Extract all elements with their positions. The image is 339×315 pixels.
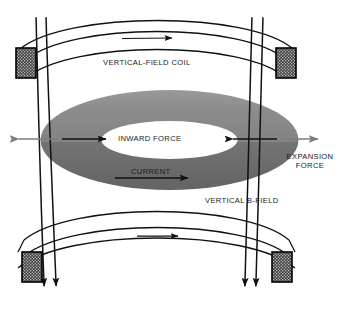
label-vertical-field-coil: VERTICAL-FIELD COIL (103, 58, 191, 68)
diagram-canvas: VERTICAL-FIELD COIL INWARD FORCE EXPANSI… (0, 0, 339, 315)
coil-cross-section-bottom-right (272, 252, 292, 282)
coil-band-bottom (18, 212, 295, 269)
coil-cross-section-top-left (16, 48, 36, 78)
label-expansion-force-line2: FORCE (285, 161, 335, 171)
coil-cross-section-bottom-left (22, 252, 42, 282)
coil-cross-section-top-right (276, 48, 296, 78)
coil-current-arrow-top-icon (122, 38, 172, 39)
label-current: CURRENT (131, 167, 171, 177)
label-vertical-b-field: VERTICAL B-FIELD (205, 196, 279, 206)
label-inward-force: INWARD FORCE (118, 134, 181, 144)
